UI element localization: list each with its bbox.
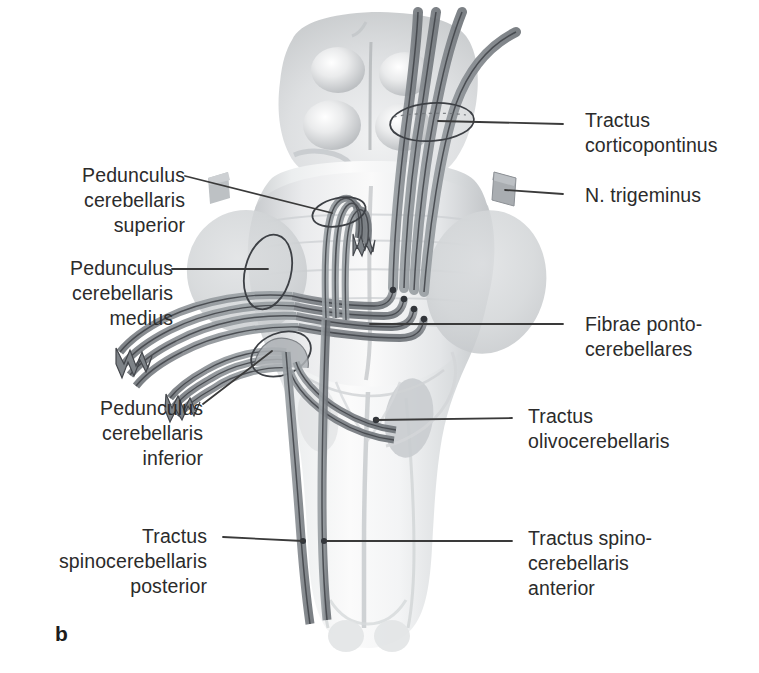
fiber-origin-dot-1 (390, 287, 396, 293)
label-pedunculus-cerebellaris-medius: Pedunculus cerebellaris medius (13, 256, 173, 331)
label-tractus-spinocerebellaris-posterior: Tractus spinocerebellaris posterior (47, 524, 207, 599)
cord-lobule-left (328, 620, 364, 652)
fiber-origin-dot-4 (421, 316, 427, 322)
n-trigeminus-stump-right (492, 172, 516, 206)
label-pedunculus-cerebellaris-inferior: Pedunculus cerebellaris inferior (43, 396, 203, 471)
n-trigeminus-stump-left (208, 172, 230, 204)
figure-letter: b (55, 622, 68, 646)
colliculus-inferior-left (303, 100, 361, 150)
label-pedunculus-cerebellaris-superior: Pedunculus cerebellaris superior (25, 163, 185, 238)
cord-lobule-right (374, 620, 410, 652)
fiber-origin-dot-3 (411, 306, 417, 312)
label-tractus-corticopontinus: Tractus corticopontinus (585, 108, 718, 158)
fiber-origin-dot-2 (401, 296, 407, 302)
colliculus-superior-left (311, 47, 365, 93)
tectal-midline-groove (370, 42, 371, 150)
anatomy-figure: Tractus corticopontinusN. trigeminusFibr… (0, 0, 759, 673)
label-tractus-olivocerebellaris: Tractus olivocerebellaris (528, 404, 670, 454)
leader-tractus-spinocerebellaris-posterior (223, 537, 303, 541)
label-tractus-spinocerebellaris-anterior: Tractus spino- cerebellaris anterior (528, 526, 652, 601)
label-fibrae-pontocerebellares: Fibrae ponto- cerebellares (585, 312, 702, 362)
label-n-trigeminus: N. trigeminus (585, 183, 701, 208)
